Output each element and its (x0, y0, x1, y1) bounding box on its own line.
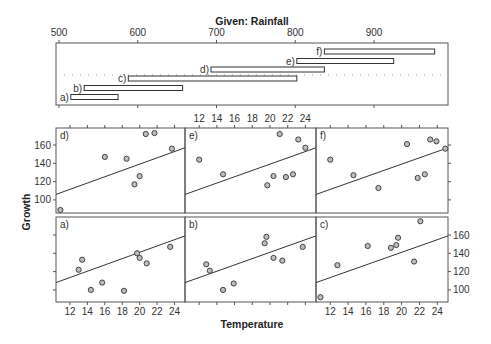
data-point (328, 157, 333, 162)
given-title: Given: Rainfall (215, 15, 289, 27)
given-interval-bar (211, 67, 324, 72)
data-point (220, 172, 225, 177)
panel-e: e)12141618202224 (185, 113, 316, 213)
data-point (415, 175, 420, 180)
data-point (137, 255, 142, 260)
data-point (376, 185, 381, 190)
data-point (102, 154, 107, 159)
x-tick-label: 12 (194, 113, 206, 124)
x-tick-label: 22 (282, 113, 294, 124)
data-point (318, 295, 323, 300)
data-point (265, 183, 270, 188)
y-tick-label: 160 (453, 230, 470, 241)
y-tick-label: 100 (453, 284, 470, 295)
data-point (220, 287, 225, 292)
x-tick-label: 14 (211, 113, 223, 124)
regression-line (56, 148, 185, 195)
regression-line (316, 236, 448, 283)
data-point (271, 255, 276, 260)
given-tick-label: 600 (129, 27, 146, 38)
x-tick-label: 18 (247, 113, 259, 124)
panel-c: c)12141618202224100120140160 (316, 217, 470, 317)
data-point (395, 235, 400, 240)
data-point (169, 146, 174, 151)
x-tick-label: 12 (64, 306, 76, 317)
panel-label: a) (60, 219, 69, 230)
data-point (300, 244, 305, 249)
panel-d: d)100120140160 (34, 125, 185, 213)
x-tick-label: 14 (343, 306, 355, 317)
given-tick-label: 800 (287, 27, 304, 38)
given-interval-bar (84, 86, 182, 91)
x-tick-label: 16 (99, 306, 111, 317)
data-point (204, 262, 209, 267)
data-point (290, 172, 295, 177)
regression-line (56, 236, 185, 283)
data-point (443, 146, 448, 151)
data-point (80, 257, 85, 262)
given-interval-bar (71, 95, 118, 100)
data-point (132, 182, 137, 187)
given-interval-label: b) (73, 83, 82, 94)
y-tick-label: 120 (453, 266, 470, 277)
given-tick-label: 900 (366, 27, 383, 38)
y-tick-label: 100 (34, 194, 51, 205)
given-interval-label: e) (286, 56, 295, 67)
panel-a: a)12141618202224 (53, 217, 185, 317)
data-point (124, 156, 129, 161)
x-tick-label: 14 (82, 306, 94, 317)
x-tick-label: 20 (264, 113, 276, 124)
panel-label: f) (320, 130, 326, 141)
x-tick-label: 24 (432, 306, 444, 317)
given-tick-label: 700 (208, 27, 225, 38)
y-tick-label: 140 (453, 248, 470, 259)
given-interval-label: f) (316, 46, 322, 57)
given-tick-label: 500 (51, 27, 68, 38)
x-axis-label: Temperature (221, 318, 284, 330)
given-panel: 500600700800900a)b)c)d)e)f) (51, 27, 448, 108)
data-point (394, 242, 399, 247)
data-point (143, 131, 148, 136)
data-point (137, 174, 142, 179)
x-tick-label: 24 (169, 306, 181, 317)
data-point (264, 234, 269, 239)
x-tick-label: 12 (325, 306, 337, 317)
panel-label: e) (189, 130, 198, 141)
given-interval-label: c) (118, 73, 126, 84)
data-point (197, 157, 202, 162)
x-tick-label: 22 (414, 306, 426, 317)
scatter-panels: d)100120140160e)12141618202224f)a)121416… (34, 113, 470, 317)
regression-line (185, 236, 316, 283)
data-point (152, 131, 157, 136)
x-tick-label: 22 (152, 306, 164, 317)
given-interval-label: d) (200, 64, 209, 75)
x-tick-label: 18 (117, 306, 129, 317)
data-point (168, 244, 173, 249)
data-point (283, 174, 288, 179)
panel-label: b) (189, 219, 198, 230)
panel-f: f) (316, 125, 451, 213)
given-interval-label: a) (60, 92, 69, 103)
data-point (121, 288, 126, 293)
data-point (335, 263, 340, 268)
x-tick-label: 24 (300, 113, 312, 124)
x-tick-label: 20 (134, 306, 146, 317)
data-point (428, 137, 433, 142)
regression-line (185, 148, 316, 195)
data-point (422, 172, 427, 177)
x-tick-label: 16 (360, 306, 372, 317)
data-point (100, 280, 105, 285)
x-tick-label: 18 (378, 306, 390, 317)
data-point (303, 145, 308, 150)
regression-line (316, 148, 448, 195)
data-point (231, 281, 236, 286)
data-point (365, 243, 370, 248)
y-tick-label: 120 (34, 176, 51, 187)
data-point (271, 174, 276, 179)
data-point (144, 261, 149, 266)
given-interval-bar (324, 49, 434, 54)
data-point (277, 131, 282, 136)
data-point (404, 141, 409, 146)
data-point (76, 267, 81, 272)
data-point (388, 245, 393, 250)
